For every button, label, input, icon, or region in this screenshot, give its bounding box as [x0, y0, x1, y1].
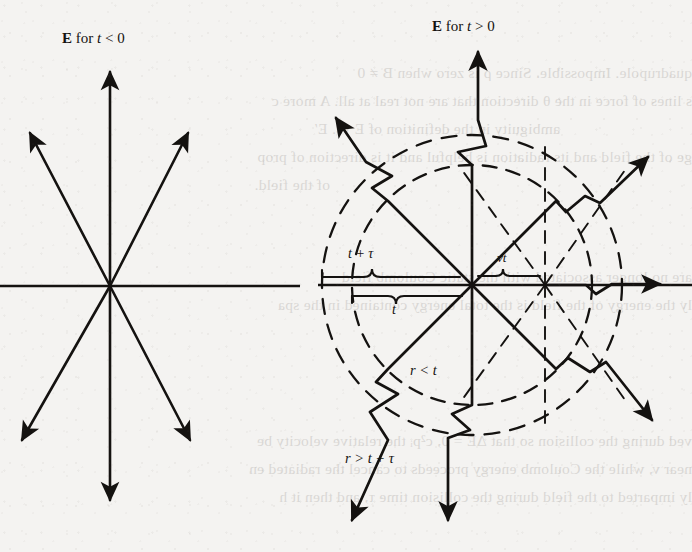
label-t: t: [392, 302, 396, 318]
label-vt: vt: [497, 250, 506, 266]
dashed-ray-down-left: [462, 285, 545, 400]
label-t-plus-tau: t + τ: [348, 246, 373, 262]
bracket-t-plus-tau: [322, 269, 460, 277]
bracket-t: [352, 296, 462, 304]
bracket-path-t: [352, 296, 462, 304]
bracket-path-t-plus-tau: [322, 269, 460, 277]
kinked-line-down-left: [352, 285, 472, 520]
left-figure-title: E for t < 0: [62, 30, 125, 47]
right-title-field-symbol: E: [432, 18, 442, 34]
field-ray-up-right: [110, 133, 188, 286]
left-title-field-symbol: E: [62, 30, 72, 46]
kinked-line-down: [448, 285, 472, 520]
left-title-for: for: [72, 30, 97, 46]
right-title-relation: > 0: [471, 18, 494, 34]
right-figure-title: E for t > 0: [432, 18, 495, 35]
field-line-drawing: [0, 0, 692, 552]
field-ray-down-left: [22, 286, 110, 440]
kinked-line-down-right: [472, 285, 652, 420]
figure-root: quadrupole. Impossible. Since ρ is zero …: [0, 0, 692, 552]
right-title-for: for: [442, 18, 467, 34]
label-r-less-than-t: r < t: [410, 362, 437, 379]
left-title-relation: < 0: [101, 30, 124, 46]
field-ray-up-left: [30, 133, 110, 286]
label-r-greater-than-t-plus-tau: r > t + τ: [345, 450, 394, 467]
dashed-ray-up-left: [462, 170, 545, 285]
field-ray-down-right: [110, 286, 190, 440]
kinked-line-up: [458, 52, 486, 285]
